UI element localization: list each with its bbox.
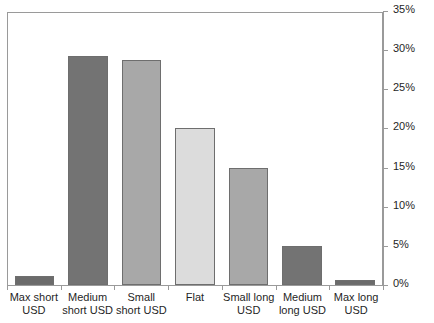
y-axis-spine: [383, 12, 384, 286]
x-axis-label: Medium long USD: [276, 289, 330, 323]
bar-series: [8, 13, 382, 285]
y-tick-label: 0%: [393, 278, 409, 289]
y-tick-label: 35%: [393, 4, 415, 15]
bar[interactable]: [335, 280, 375, 285]
x-axis-labels: Max short USDMedium short USDSmall short…: [7, 289, 383, 323]
x-axis-label: Small short USD: [114, 289, 168, 323]
chart-title-fragment: [40, 0, 370, 4]
x-axis-label: Medium short USD: [61, 289, 115, 323]
bar[interactable]: [175, 128, 215, 285]
x-axis-label: Small long USD: [222, 289, 276, 323]
y-tick-label: 25%: [393, 82, 415, 93]
bar-slot: [168, 13, 221, 285]
bar[interactable]: [15, 276, 55, 285]
y-tick-label: 30%: [393, 43, 415, 54]
bar[interactable]: [229, 168, 269, 285]
bar-slot: [329, 13, 382, 285]
y-tick-label: 15%: [393, 161, 415, 172]
bar[interactable]: [122, 60, 162, 285]
x-axis-label: Max long USD: [329, 289, 383, 323]
x-axis-label: Max short USD: [7, 289, 61, 323]
plot-area: [7, 12, 383, 286]
bar-slot: [115, 13, 168, 285]
bar-chart: 0%5%10%15%20%25%30%35% Max short USDMedi…: [0, 0, 434, 323]
x-tick-mark: [383, 286, 384, 290]
y-tick-label: 20%: [393, 121, 415, 132]
x-axis-label: Flat: [168, 289, 222, 323]
bar-slot: [222, 13, 275, 285]
y-tick-label: 5%: [393, 239, 409, 250]
y-tick-label: 10%: [393, 200, 415, 211]
bar[interactable]: [68, 56, 108, 285]
bar-slot: [275, 13, 328, 285]
y-axis: 0%5%10%15%20%25%30%35%: [383, 12, 434, 286]
bar-slot: [61, 13, 114, 285]
bar-slot: [8, 13, 61, 285]
bar[interactable]: [282, 246, 322, 285]
